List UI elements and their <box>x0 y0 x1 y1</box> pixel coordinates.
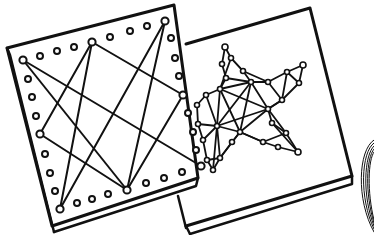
star-pattern-board <box>178 8 352 234</box>
line-art-drawing <box>0 0 374 235</box>
string-art-illustration: String art boards <box>0 0 374 235</box>
square-pattern-board <box>7 5 205 232</box>
star-strings <box>197 47 303 170</box>
thread-coil-icon <box>361 140 374 232</box>
